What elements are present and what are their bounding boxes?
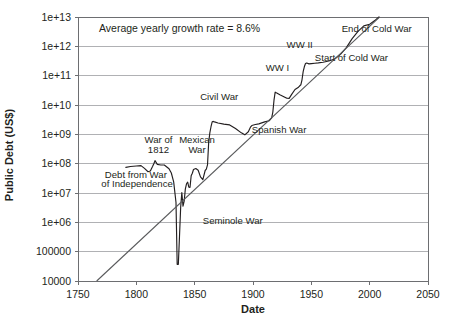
y-tick-label: 1e+11: [42, 69, 71, 81]
x-tick-label: 2000: [358, 288, 382, 300]
annotation-end-cold-war: End of Cold War: [342, 23, 413, 34]
annotation-spanish-war: Spanish War: [252, 124, 307, 135]
x-tick-label: 1900: [241, 288, 265, 300]
public-debt-line-chart: 100001000001e+061e+071e+081e+091e+101e+1…: [0, 0, 458, 322]
x-axis-title: Date: [241, 303, 265, 315]
y-tick-label: 1e+08: [42, 157, 72, 169]
x-tick-label: 1850: [183, 288, 207, 300]
annotation-ww-ii: WW II: [287, 39, 313, 50]
annotation-war-of-1812-2: 1812: [148, 144, 169, 155]
debt-chart-figure: 100001000001e+061e+071e+081e+091e+101e+1…: [0, 0, 458, 322]
y-axis-title: Public Debt (US$): [3, 109, 15, 202]
y-tick-label: 10000: [42, 275, 71, 287]
annotation-debt-war-independence-2: of Independence: [101, 178, 173, 189]
x-tick-label: 1800: [125, 288, 149, 300]
annotation-start-cold-war: Start of Cold War: [315, 52, 389, 63]
y-tick-label: 1e+06: [42, 216, 72, 228]
y-tick-label: 100000: [36, 245, 71, 257]
y-tick-label: 1e+10: [42, 99, 72, 111]
x-tick-label: 1750: [66, 288, 90, 300]
y-tick-label: 1e+07: [42, 187, 72, 199]
y-tick-label: 1e+12: [42, 40, 72, 52]
annotation-growth-rate-note: Average yearly growth rate = 8.6%: [99, 22, 260, 34]
annotation-civil-war: Civil War: [200, 91, 239, 102]
x-tick-label: 2050: [416, 288, 440, 300]
annotation-ww-i: WW I: [266, 62, 289, 73]
x-tick-label: 1950: [300, 288, 324, 300]
annotation-mexican-war-2: War: [188, 144, 206, 155]
y-tick-label: 1e+09: [42, 128, 72, 140]
annotation-seminole-war: Seminole War: [203, 215, 264, 226]
y-tick-label: 1e+13: [42, 11, 72, 23]
